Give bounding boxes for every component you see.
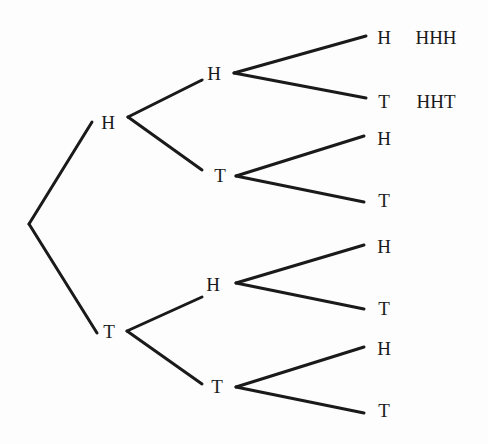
tree-branch [29, 224, 97, 333]
tree-branch [236, 176, 364, 202]
node-label-hth: H [377, 129, 391, 148]
node-label-ht: T [214, 166, 226, 185]
tree-branch [128, 117, 202, 170]
tree-branch [236, 245, 364, 283]
outcome-label: HHT [416, 92, 455, 111]
tree-branch [236, 347, 364, 387]
tree-branch [234, 73, 366, 98]
outcome-label: HHH [415, 28, 456, 47]
node-label-th: H [206, 275, 220, 294]
node-label-hht: T [378, 92, 390, 111]
node-label-ttt: T [378, 401, 390, 420]
tree-branch [29, 122, 92, 224]
node-label-t: T [103, 322, 115, 341]
tree-branch [236, 136, 364, 176]
node-label-h: H [101, 113, 115, 132]
tree-branch [127, 297, 202, 331]
tree-branch [127, 331, 202, 384]
node-label-tht: T [378, 299, 390, 318]
tree-branch [234, 36, 366, 73]
node-label-tth: H [377, 339, 391, 358]
tree-branch [128, 80, 202, 117]
tree-edges [0, 0, 488, 444]
node-label-thh: H [377, 237, 391, 256]
node-label-tt: T [211, 377, 223, 396]
tree-branch [236, 283, 364, 309]
tree-branch [236, 387, 364, 413]
node-label-htt: T [378, 191, 390, 210]
probability-tree-diagram: HTHTHTHTHTHTHTHHHHHT [0, 0, 488, 444]
node-label-hhh: H [377, 28, 391, 47]
node-label-hh: H [207, 64, 221, 83]
